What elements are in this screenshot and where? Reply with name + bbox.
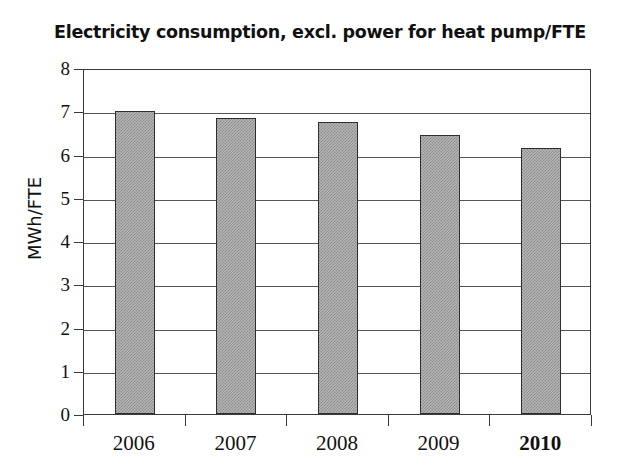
y-tick-label: 0 — [46, 405, 70, 424]
bar-2009 — [420, 135, 460, 414]
y-axis-label: MWh/FTE — [24, 159, 45, 279]
y-tick-label: 1 — [46, 362, 70, 381]
y-tick-label: 6 — [46, 146, 70, 165]
x-tick-mark — [388, 415, 389, 426]
y-tick-mark — [74, 69, 83, 70]
x-tick-label-2009: 2009 — [389, 431, 489, 456]
bar-chart: Electricity consumption, excl. power for… — [0, 0, 621, 471]
y-tick-mark — [74, 156, 83, 157]
x-tick-label-2008: 2008 — [287, 431, 387, 456]
bar-2006 — [115, 111, 155, 414]
x-tick-label-2006: 2006 — [84, 431, 184, 456]
y-tick-mark — [74, 242, 83, 243]
y-tick-mark — [74, 329, 83, 330]
y-tick-mark — [74, 285, 83, 286]
y-tick-label: 2 — [46, 319, 70, 338]
y-tick-label: 8 — [46, 59, 70, 78]
x-tick-mark — [83, 415, 84, 426]
x-tick-mark — [489, 415, 490, 426]
x-tick-mark — [185, 415, 186, 426]
plot-area — [83, 69, 591, 415]
y-tick-mark — [74, 112, 83, 113]
x-tick-label-2007: 2007 — [185, 431, 285, 456]
y-tick-label: 5 — [46, 189, 70, 208]
y-tick-label: 7 — [46, 102, 70, 121]
bar-2008 — [318, 122, 358, 414]
x-tick-mark — [286, 415, 287, 426]
y-tick-mark — [74, 372, 83, 373]
x-tick-mark — [591, 415, 592, 426]
y-tick-mark — [74, 199, 83, 200]
y-tick-label: 4 — [46, 232, 70, 251]
bar-2007 — [216, 118, 256, 414]
bar-2010 — [521, 148, 561, 414]
y-tick-mark — [74, 415, 83, 416]
x-tick-label-2010: 2010 — [490, 431, 590, 456]
gridline — [84, 113, 590, 114]
y-tick-label: 3 — [46, 275, 70, 294]
chart-title: Electricity consumption, excl. power for… — [40, 22, 600, 42]
